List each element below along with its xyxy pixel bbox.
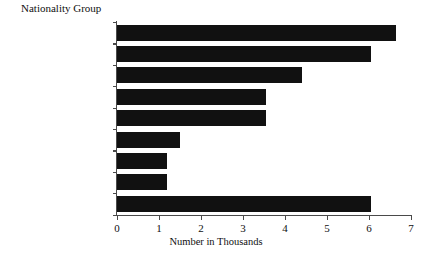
x-axis-line xyxy=(116,215,412,216)
y-axis-tick xyxy=(113,193,118,194)
x-axis-tick xyxy=(201,215,202,220)
bar-row: Unknown/Stateless xyxy=(117,193,411,214)
x-axis-tick-label: 7 xyxy=(399,221,423,235)
y-axis-title: Nationality Group xyxy=(21,2,101,15)
bar-chart: Nationality Group Latin AmericanAfricanA… xyxy=(0,0,432,258)
bar-row: Latin American xyxy=(117,22,411,43)
bar-row: Other Nordic xyxy=(117,86,411,107)
x-axis-title: Number in Thousands xyxy=(0,235,432,249)
bar xyxy=(117,46,371,62)
x-axis-tick xyxy=(327,215,328,220)
y-axis-tick xyxy=(113,22,118,23)
y-axis-tick xyxy=(113,43,118,44)
y-axis-tick xyxy=(113,108,118,109)
y-axis-tick xyxy=(113,172,118,173)
plot-area: Latin AmericanAfricanAsianOther NordicOt… xyxy=(117,22,411,215)
x-axis-tick-label: 6 xyxy=(357,221,381,235)
x-axis-tick-label: 1 xyxy=(147,221,171,235)
bar xyxy=(117,153,167,169)
x-axis-tick xyxy=(285,215,286,220)
y-axis-tick xyxy=(113,86,118,87)
x-axis-tick xyxy=(411,215,412,220)
x-axis-tick-label: 3 xyxy=(231,221,255,235)
bar-row: African xyxy=(117,43,411,64)
bar xyxy=(117,25,396,41)
y-axis-tick xyxy=(113,65,118,66)
x-axis-tick xyxy=(243,215,244,220)
bar-row: Asian xyxy=(117,65,411,86)
bar xyxy=(117,174,167,190)
x-axis-tick xyxy=(117,215,118,220)
bar xyxy=(117,132,180,148)
x-axis-tick xyxy=(159,215,160,220)
bar xyxy=(117,89,266,105)
bar xyxy=(117,110,266,126)
x-axis-tick-label: 2 xyxy=(189,221,213,235)
x-axis-tick-label: 5 xyxy=(315,221,339,235)
bar-row: Other European xyxy=(117,108,411,129)
y-axis-tick xyxy=(113,150,118,151)
x-axis-tick-label: 0 xyxy=(105,221,129,235)
bar-row: North American xyxy=(117,129,411,150)
bar-row: Swedish xyxy=(117,150,411,171)
y-axis-tick xyxy=(113,129,118,130)
bar-row: Australian xyxy=(117,172,411,193)
bar xyxy=(117,67,302,83)
bar xyxy=(117,196,371,212)
x-axis-tick xyxy=(369,215,370,220)
x-axis-tick-label: 4 xyxy=(273,221,297,235)
